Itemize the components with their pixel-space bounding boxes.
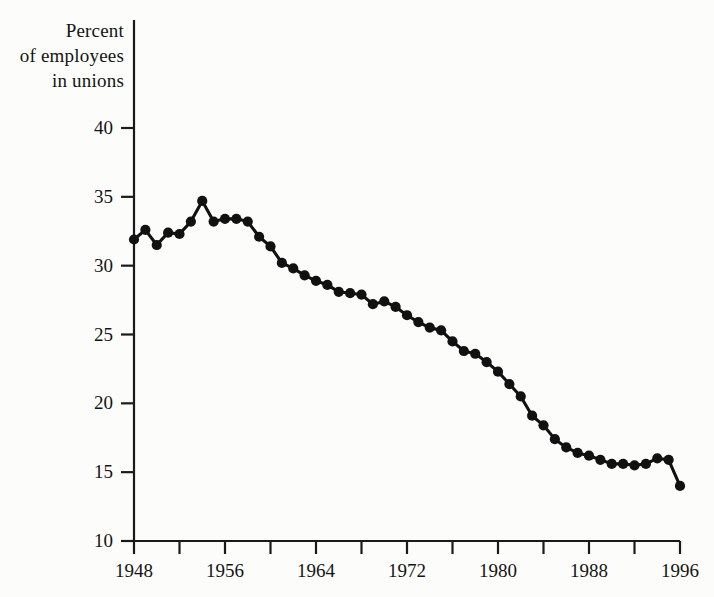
data-point xyxy=(243,217,253,227)
data-point xyxy=(493,367,503,377)
data-point xyxy=(231,214,241,224)
data-point xyxy=(277,258,287,268)
data-point xyxy=(129,234,139,244)
data-point xyxy=(152,240,162,250)
series-markers xyxy=(129,196,685,491)
y-axis-tick-label: 10 xyxy=(69,531,113,550)
data-point xyxy=(459,346,469,356)
data-point xyxy=(607,459,617,469)
series-line xyxy=(134,201,680,486)
x-axis-tick-label: 1956 xyxy=(190,561,260,580)
data-point xyxy=(573,448,583,458)
data-point xyxy=(538,420,548,430)
y-axis-tick-label: 30 xyxy=(69,256,113,275)
x-axis-tick-label: 1972 xyxy=(372,561,442,580)
data-point xyxy=(265,241,275,251)
x-axis-tick-label: 1996 xyxy=(645,561,714,580)
data-point xyxy=(482,357,492,367)
y-axis-ticks xyxy=(121,128,134,541)
x-axis-tick-label: 1964 xyxy=(281,561,351,580)
data-point xyxy=(641,459,651,469)
x-axis-tick-label: 1988 xyxy=(554,561,624,580)
union-membership-chart: Percent of employees in unions 101520253… xyxy=(0,0,714,597)
data-point xyxy=(368,299,378,309)
data-point xyxy=(300,270,310,280)
data-point xyxy=(254,232,264,242)
data-point xyxy=(675,481,685,491)
data-point xyxy=(220,214,230,224)
data-point xyxy=(664,455,674,465)
x-axis-tick-label: 1948 xyxy=(99,561,169,580)
y-axis-tick-label: 25 xyxy=(69,325,113,344)
data-point xyxy=(595,455,605,465)
data-point xyxy=(356,289,366,299)
data-point xyxy=(447,336,457,346)
data-point xyxy=(334,287,344,297)
data-point xyxy=(186,217,196,227)
data-point xyxy=(584,451,594,461)
data-point xyxy=(174,229,184,239)
y-axis-tick-label: 40 xyxy=(69,118,113,137)
data-point xyxy=(209,217,219,227)
data-point xyxy=(345,288,355,298)
data-point xyxy=(652,453,662,463)
y-axis-tick-label: 35 xyxy=(69,187,113,206)
chart-plot-area xyxy=(0,0,714,597)
y-axis-tick-label: 20 xyxy=(69,393,113,412)
data-point xyxy=(391,302,401,312)
data-point xyxy=(288,263,298,273)
data-point xyxy=(197,196,207,206)
data-point xyxy=(322,280,332,290)
data-point xyxy=(436,325,446,335)
data-point xyxy=(402,310,412,320)
data-point xyxy=(140,225,150,235)
data-point xyxy=(527,411,537,421)
data-point xyxy=(516,391,526,401)
x-axis-tick-label: 1980 xyxy=(463,561,533,580)
y-axis-tick-label: 15 xyxy=(69,462,113,481)
data-point xyxy=(425,323,435,333)
data-point xyxy=(618,459,628,469)
data-point xyxy=(163,228,173,238)
data-point xyxy=(561,442,571,452)
data-series-union-percent xyxy=(129,196,685,491)
data-point xyxy=(379,296,389,306)
data-point xyxy=(311,276,321,286)
data-point xyxy=(413,317,423,327)
data-point xyxy=(629,460,639,470)
data-point xyxy=(504,379,514,389)
data-point xyxy=(470,349,480,359)
x-axis-ticks xyxy=(134,541,680,554)
data-point xyxy=(550,434,560,444)
